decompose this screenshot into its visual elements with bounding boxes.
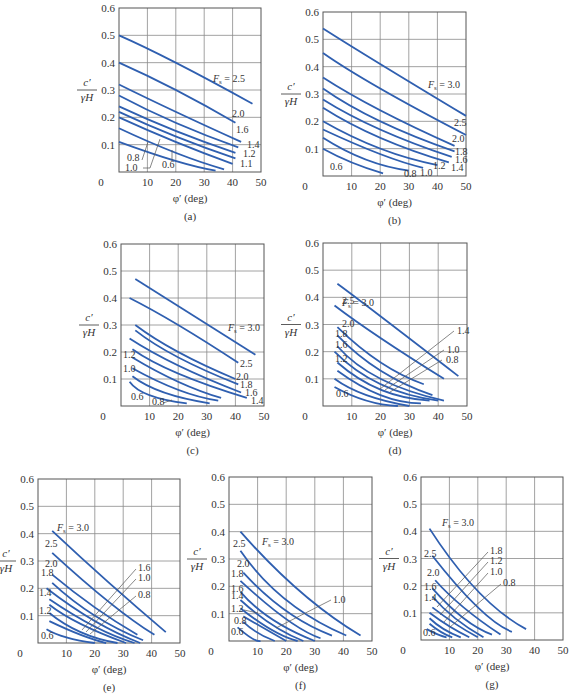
x-tick-label: 30 [501, 644, 513, 656]
curve-label: 2.5 [454, 117, 467, 128]
x-axis-label: φ′ (deg) [92, 663, 127, 676]
curve-label: 2.0 [427, 567, 440, 578]
curve-label: 2.5 [233, 538, 246, 549]
y-tick-label: 0.5 [101, 29, 115, 41]
y-tick-label: 0.6 [403, 471, 417, 483]
curve-label: 0.6 [330, 161, 343, 172]
leader-line [390, 360, 442, 392]
leader-line [437, 552, 488, 607]
curve-label: 1.2 [231, 603, 244, 614]
leader-line [380, 331, 454, 389]
grid [323, 12, 466, 176]
curve-label: 0.6 [231, 626, 244, 637]
leader-line [444, 573, 488, 622]
x-tick-label: 10 [142, 176, 154, 188]
curve-label: 1.2 [123, 349, 136, 360]
x-tick-label: 20 [170, 176, 182, 188]
y-tick-label: 0.4 [305, 61, 319, 73]
y-tick-label: 0.3 [305, 88, 319, 100]
curve-label: 1.4 [424, 592, 437, 603]
y-tick-label: 0.2 [403, 580, 417, 592]
y-tick-label: 0.5 [103, 265, 117, 277]
y-axis-label-denominator: γH [0, 562, 13, 574]
y-tick-label: 0.6 [305, 6, 319, 18]
curve-label: 1.0 [125, 162, 138, 173]
y-tick-label: 0.1 [101, 139, 115, 151]
x-tick-label: 50 [175, 647, 187, 659]
curve-label: 1.8 [335, 328, 348, 339]
y-tick-label: 0.6 [211, 471, 225, 483]
curve-label: 1.1 [240, 158, 253, 169]
curve-fs-2.0 [243, 573, 332, 636]
x-axis-label: φ′ (deg) [475, 660, 510, 673]
curve-label: Fs = 3.0 [227, 322, 260, 335]
curve-label: Fs = 3.0 [427, 79, 460, 92]
y-tick-label: 0.2 [305, 115, 319, 127]
x-tick-label: 20 [89, 647, 101, 659]
y-tick-label: 0.4 [211, 526, 225, 538]
chart-panel-b: 0.10.20.30.40.50.601020304050φ′ (deg)(b)… [281, 6, 472, 227]
y-axis-label-denominator: γH [81, 91, 94, 103]
x-tick-label: 0 [98, 176, 104, 188]
curve-label: 1.2 [433, 160, 446, 171]
y-tick-label: 0.6 [305, 237, 319, 249]
x-tick-label: 0 [208, 645, 214, 657]
curve-label: 0.8 [138, 589, 151, 600]
curve-label: 1.6 [424, 581, 437, 592]
panel-caption: (d) [389, 444, 402, 457]
x-tick-label: 30 [201, 410, 213, 422]
curve-label: 2.0 [232, 108, 245, 119]
y-tick-label: 0.5 [403, 498, 417, 510]
x-axis-label: φ′ (deg) [173, 192, 208, 205]
x-tick-label: 10 [346, 410, 358, 422]
y-tick-label: 0.4 [20, 528, 34, 540]
curve-fs-1.2 [132, 357, 221, 398]
panel-caption: (b) [388, 214, 401, 227]
x-tick-label: 40 [227, 176, 239, 188]
curve-label: 1.0 [123, 363, 136, 374]
x-tick-label: 20 [281, 645, 293, 657]
x-tick-label: 0 [100, 410, 106, 422]
chart-panel-e: 0.10.20.30.40.50.601020304050φ′ (deg)(e)… [0, 473, 186, 694]
curve-label: 0.6 [423, 627, 436, 638]
curve-fs-2.5 [240, 551, 346, 636]
y-tick-label: 0.1 [403, 607, 417, 619]
y-tick-label: 0.3 [103, 319, 117, 331]
y-tick-label: 0.6 [101, 2, 115, 14]
curve-label: 0.6 [131, 391, 144, 402]
x-tick-label: 50 [462, 410, 474, 422]
y-axis-label-numerator: c′ [2, 547, 10, 559]
y-tick-label: 0.2 [305, 346, 319, 358]
x-axis-label: φ′ (deg) [377, 196, 412, 209]
curves [323, 28, 466, 173]
curve-label: 0.8 [404, 168, 417, 179]
curve-label: 1.2 [490, 555, 503, 566]
x-tick-label: 30 [199, 176, 211, 188]
curve-label: Fs = 3.0 [441, 517, 474, 530]
x-tick-label: 10 [144, 410, 156, 422]
y-axis-label-denominator: γH [285, 326, 298, 338]
x-tick-label: 10 [252, 645, 264, 657]
y-tick-label: 0.5 [305, 264, 319, 276]
x-tick-label: 30 [404, 410, 416, 422]
curve-label: 2.5 [424, 548, 437, 559]
y-tick-label: 0.3 [211, 553, 225, 565]
curve-fs-2.5 [130, 298, 239, 363]
y-tick-label: 0.3 [20, 555, 34, 567]
y-tick-label: 0.4 [403, 525, 417, 537]
curve-label: 1.0 [138, 572, 151, 583]
y-tick-label: 0.2 [101, 111, 115, 123]
chart-panel-f: 0.10.20.30.40.50.601020304050φ′ (deg)(f)… [187, 471, 378, 692]
y-axis-label-denominator: γH [383, 560, 396, 572]
x-tick-label: 20 [375, 410, 387, 422]
x-tick-label: 20 [472, 644, 484, 656]
curve-fs-1.4 [119, 95, 238, 147]
panel-caption: (g) [486, 678, 499, 691]
x-tick-label: 30 [309, 645, 321, 657]
panel-caption: (f) [295, 679, 306, 692]
panel-caption: (a) [184, 210, 197, 223]
curve-label: 0.6 [336, 388, 349, 399]
curve-label: 1.2 [335, 353, 348, 364]
curve-label: 1.0 [490, 566, 503, 577]
y-tick-label: 0.1 [305, 373, 319, 385]
